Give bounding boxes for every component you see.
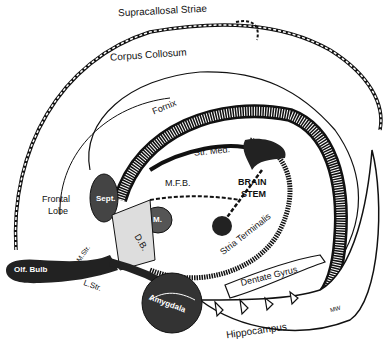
label-olfactory-bulb: Olf. Bulb xyxy=(14,266,47,274)
tegmental-nucleus xyxy=(212,216,232,236)
label-septum: Sept. xyxy=(96,195,116,203)
diagonal-band xyxy=(112,200,155,270)
label-frontal-lobe-line2: Lobe xyxy=(48,207,68,216)
limbic-system-diagram xyxy=(0,0,390,354)
mfb-tract xyxy=(150,196,240,200)
hippocampus-outline xyxy=(200,150,379,330)
label-frontal-lobe-line1: Frontal xyxy=(42,195,70,204)
label-mammillary: M. xyxy=(153,216,162,224)
habenula-shape xyxy=(243,139,285,170)
label-mfb: M.F.B. xyxy=(165,179,191,188)
label-brain-stem-line2: STEM xyxy=(241,190,266,199)
label-brain-stem-line1: BRAIN xyxy=(238,178,267,187)
